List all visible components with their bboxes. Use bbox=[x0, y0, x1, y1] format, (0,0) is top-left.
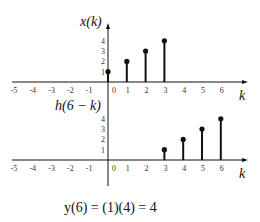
y-axis-label: x(k) bbox=[79, 14, 102, 30]
x-tick-label: 6 bbox=[220, 86, 224, 95]
x-tick-label: -3 bbox=[48, 86, 55, 95]
y-axis-arrow-icon bbox=[106, 23, 110, 29]
bottom-plot: -5-4-3-2-101234561234h(6 − k)k bbox=[11, 82, 248, 186]
x-tick-label: 1 bbox=[126, 86, 130, 95]
stem-marker bbox=[199, 127, 204, 132]
stem-marker bbox=[162, 147, 167, 152]
top-plot: -5-4-3-2-101234561234x(k)k bbox=[11, 14, 248, 103]
x-tick-label: 5 bbox=[201, 164, 205, 173]
y-tick-label: 3 bbox=[101, 125, 105, 134]
stem-marker bbox=[218, 116, 223, 121]
x-tick-label: 3 bbox=[163, 86, 167, 95]
x-tick-label: 3 bbox=[163, 164, 167, 173]
stem-marker bbox=[162, 38, 167, 43]
x-tick-label: 6 bbox=[220, 164, 224, 173]
stem-marker bbox=[143, 49, 148, 54]
y-tick-label: 2 bbox=[101, 135, 105, 144]
y-tick-label: 2 bbox=[101, 57, 105, 66]
stem-marker bbox=[105, 69, 110, 74]
x-axis-arrow-icon bbox=[242, 80, 248, 84]
x-axis-label: k bbox=[239, 88, 246, 103]
x-tick-label: -2 bbox=[67, 86, 74, 95]
equation: y(6) = (1)(4) = 4 bbox=[64, 200, 157, 216]
x-tick-label: 4 bbox=[182, 86, 186, 95]
x-tick-label: -1 bbox=[86, 86, 93, 95]
x-tick-label: 1 bbox=[126, 164, 130, 173]
x-tick-label: 2 bbox=[145, 86, 149, 95]
stem-marker bbox=[181, 137, 186, 142]
x-tick-label: 0 bbox=[112, 86, 116, 95]
stem-marker bbox=[124, 59, 129, 64]
x-tick-label: -4 bbox=[29, 164, 36, 173]
y-tick-label: 4 bbox=[101, 37, 105, 46]
x-tick-label: -5 bbox=[11, 164, 18, 173]
y-axis-label: h(6 − k) bbox=[55, 98, 101, 114]
x-tick-label: 5 bbox=[201, 86, 205, 95]
x-tick-label: -3 bbox=[48, 164, 55, 173]
x-tick-label: 4 bbox=[182, 164, 186, 173]
x-tick-label: -2 bbox=[67, 164, 74, 173]
y-tick-label: 1 bbox=[101, 68, 105, 77]
x-tick-label: -1 bbox=[86, 164, 93, 173]
x-tick-label: 2 bbox=[145, 164, 149, 173]
x-axis-arrow-icon bbox=[242, 158, 248, 162]
y-tick-label: 3 bbox=[101, 47, 105, 56]
x-tick-label: -5 bbox=[11, 86, 18, 95]
convolution-diagram: -5-4-3-2-101234561234x(k)k -5-4-3-2-1012… bbox=[0, 0, 260, 222]
x-tick-label: -4 bbox=[29, 86, 36, 95]
x-tick-label: 0 bbox=[112, 164, 116, 173]
y-tick-label: 1 bbox=[101, 146, 105, 155]
x-axis-label: k bbox=[239, 166, 246, 181]
y-tick-label: 4 bbox=[101, 115, 105, 124]
